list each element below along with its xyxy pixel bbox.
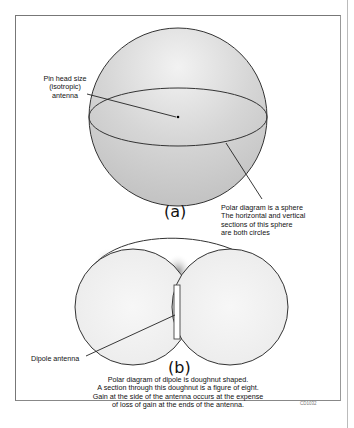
- isotropic-point: [177, 116, 180, 119]
- pin-head-label: Pin head size (isotropic) antenna: [35, 75, 95, 100]
- caption-a: (a): [164, 202, 186, 221]
- dipole-label: Dipole antenna: [31, 355, 79, 363]
- figure-code: CD1032: [300, 400, 317, 408]
- dipole-description: Polar diagram of dipole is doughnut shap…: [40, 376, 316, 409]
- isotropic-sphere: [87, 28, 267, 206]
- sphere-label: Polar diagram is a sphere The horizontal…: [221, 204, 305, 237]
- label-line: are both circles: [221, 229, 305, 237]
- dipole-element: [174, 285, 180, 339]
- dipole-doughnut: [75, 238, 288, 365]
- label-line: antenna: [35, 92, 95, 100]
- description-line: of loss of gain at the ends of the anten…: [40, 401, 316, 409]
